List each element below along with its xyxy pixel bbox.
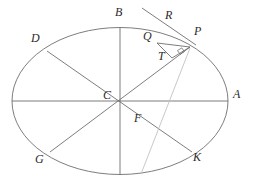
point-label-C: C <box>103 89 111 101</box>
geometry-diagram: A B C D G K P Q R T F <box>0 0 255 185</box>
point-label-D: D <box>31 32 40 44</box>
point-label-R: R <box>165 9 172 21</box>
point-label-K: K <box>193 151 201 163</box>
point-label-F: F <box>134 112 141 124</box>
point-label-Q: Q <box>143 30 152 42</box>
point-label-T: T <box>158 50 165 62</box>
diameter-d-k <box>47 51 192 152</box>
point-label-G: G <box>35 153 44 165</box>
segment-q-p <box>157 43 190 47</box>
point-label-A: A <box>233 88 240 100</box>
chord-p-f-faint <box>141 48 190 174</box>
point-label-P: P <box>194 25 201 37</box>
point-label-B: B <box>115 6 122 18</box>
